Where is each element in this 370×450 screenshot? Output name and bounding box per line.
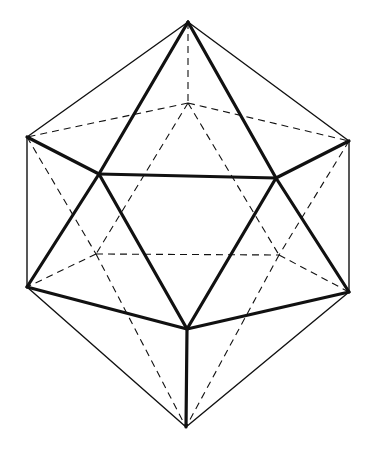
edge-outline-top-to-left-upper (27, 22, 188, 137)
edge-front-left-upper-to-front-upper-left (27, 137, 99, 174)
edge-front-top-to-front-upper-left (99, 22, 188, 174)
edge-hidden-back-lower-right-to-bottom (186, 255, 279, 427)
edge-front-top-to-front-upper-right (188, 22, 276, 178)
icosahedron-diagram (0, 0, 370, 450)
edge-front-right-upper-to-front-upper-right (276, 141, 349, 178)
edge-hidden-back-lower-left-to-bottom (96, 254, 186, 427)
edge-outline-top-to-right-upper (188, 22, 349, 141)
edge-front-front-upper-right-to-right-lower (276, 178, 349, 292)
edge-front-right-lower-to-front-bottom (187, 292, 349, 329)
edge-front-front-upper-left-to-front-upper-right (99, 174, 276, 178)
edge-hidden-back-lower-left-to-back-lower-right (96, 254, 279, 255)
edge-hidden-back-top-to-right-upper (188, 103, 349, 141)
edge-front-front-bottom-to-bottom (186, 329, 187, 427)
edge-front-front-upper-left-to-front-bottom (99, 174, 187, 329)
edge-front-front-upper-right-to-front-bottom (187, 178, 276, 329)
edge-hidden-back-top-to-back-lower-left (96, 103, 188, 254)
